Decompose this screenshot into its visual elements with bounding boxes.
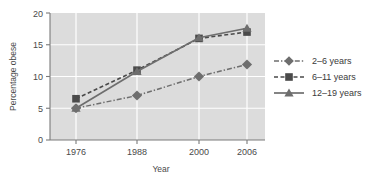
xtick-label-2000: 2000 [189, 147, 209, 157]
xtick-label-1976: 1976 [66, 147, 86, 157]
ytick-label-10: 10 [33, 72, 43, 82]
legend-square-icon [285, 73, 293, 81]
legend-label-2-6-years: 2–6 years [312, 56, 352, 66]
xtick-label-2006: 2006 [237, 147, 257, 157]
legend-label-6-11-years: 6–11 years [312, 72, 356, 82]
ytick-label-20: 20 [33, 9, 43, 19]
chart-legend: 2–6 years 6–11 years 12–19 years [274, 56, 362, 98]
ytick-label-5: 5 [38, 104, 43, 114]
legend-label-12-19-years: 12–19 years [312, 88, 362, 98]
obesity-line-chart: 0 5 10 15 20 1976 1988 2000 2006 Year Pe… [0, 0, 376, 180]
datapoint-6-11-1976 [72, 95, 80, 103]
y-axis-title: Percentage obese [8, 42, 18, 111]
ytick-label-15: 15 [33, 40, 43, 50]
ytick-label-0: 0 [38, 135, 43, 145]
xtick-label-1988: 1988 [127, 147, 147, 157]
x-axis-title: Year [152, 164, 169, 174]
chart-canvas: 0 5 10 15 20 1976 1988 2000 2006 Year Pe… [0, 0, 376, 180]
